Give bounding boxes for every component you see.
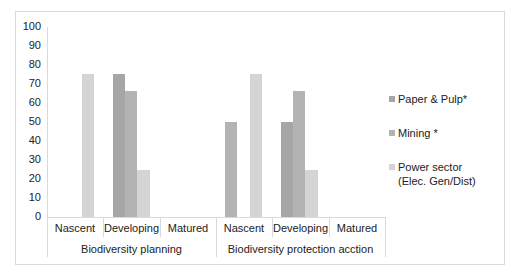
bar-power-sector: [305, 170, 318, 217]
x-group-label: Biodiversity planning: [47, 243, 216, 255]
legend-item-mining: Mining *: [398, 126, 438, 140]
legend-item-power-sector: Power sector (Elec. Gen/Dist): [398, 160, 476, 188]
legend-swatch-icon: [389, 96, 395, 102]
x-category-label: Developing: [103, 222, 160, 234]
bar-power-sector: [137, 170, 150, 217]
legend-label: Paper & Pulp*: [398, 93, 467, 105]
bar-mining: [125, 91, 137, 217]
legend-label: Mining *: [398, 127, 438, 139]
x-category-label: Matured: [329, 222, 385, 234]
y-tick-label: 30: [15, 153, 41, 165]
bar-power-sector: [82, 74, 94, 217]
bar-power-sector: [250, 74, 262, 217]
y-tick-label: 100: [15, 20, 41, 32]
bar-paper-pulp: [281, 122, 293, 217]
bar-paper-pulp: [113, 74, 125, 217]
bar-mining: [225, 122, 237, 217]
x-category-label: Nascent: [47, 222, 103, 234]
y-tick-label: 70: [15, 77, 41, 89]
y-tick-label: 40: [15, 134, 41, 146]
bar-mining: [293, 91, 305, 217]
x-category-label: Nascent: [216, 222, 272, 234]
y-tick-label: 60: [15, 96, 41, 108]
y-tick-label: 0: [15, 210, 41, 222]
x-category-label: Matured: [160, 222, 216, 234]
y-tick-label: 50: [15, 115, 41, 127]
x-category-label: Developing: [272, 222, 329, 234]
x-group-label: Biodiversity protection acction: [216, 243, 385, 255]
y-tick-label: 80: [15, 58, 41, 70]
group-separator: [385, 217, 386, 257]
y-axis-line: [47, 27, 48, 217]
y-tick-label: 10: [15, 191, 41, 203]
legend-label: (Elec. Gen/Dist): [398, 174, 476, 188]
legend-swatch-icon: [389, 164, 395, 170]
legend-label: Power sector: [398, 160, 476, 174]
y-tick-label: 20: [15, 172, 41, 184]
legend-item-paper-pulp: Paper & Pulp*: [398, 92, 467, 106]
legend-swatch-icon: [389, 130, 395, 136]
y-tick-label: 90: [15, 39, 41, 51]
